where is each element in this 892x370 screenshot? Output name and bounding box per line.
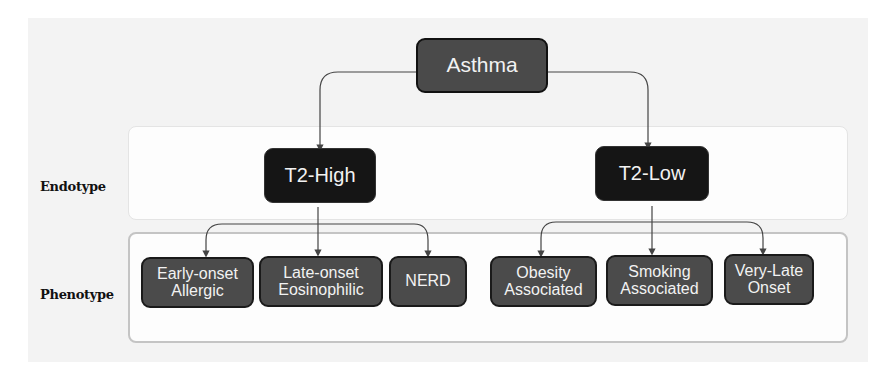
- phenotype-node-label: NERD: [405, 273, 450, 290]
- phenotype-node-smoking-associated: Smoking Associated: [606, 255, 713, 306]
- phenotype-node-label: Very-Late Onset: [735, 263, 803, 297]
- phenotype-node-nerd: NERD: [389, 256, 467, 307]
- endotype-node-label: T2-High: [284, 165, 355, 186]
- phenotype-node-late-onset-eosinophilic: Late-onset Eosinophilic: [259, 256, 383, 307]
- phenotype-node-obesity-associated: Obesity Associated: [490, 256, 597, 307]
- phenotype-node-very-late-onset: Very-Late Onset: [724, 254, 814, 305]
- endotype-node-label: T2-Low: [619, 163, 686, 184]
- phenotype-node-label: Late-onset Eosinophilic: [278, 265, 363, 299]
- phenotype-node-label: Obesity Associated: [504, 265, 582, 299]
- phenotype-node-label: Early-onset Allergic: [157, 266, 238, 300]
- endotype-node-t2-high: T2-High: [264, 148, 376, 203]
- phenotype-node-label: Smoking Associated: [620, 264, 698, 298]
- root-node-asthma: Asthma: [416, 38, 548, 93]
- phenotype-node-early-onset-allergic: Early-onset Allergic: [141, 257, 254, 308]
- root-node-label: Asthma: [446, 54, 517, 76]
- endotype-node-t2-low: T2-Low: [595, 146, 709, 201]
